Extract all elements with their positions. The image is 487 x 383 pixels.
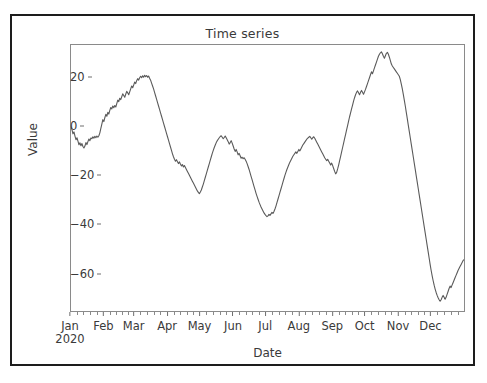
x-minor-tick bbox=[246, 312, 247, 315]
x-minor-tick bbox=[180, 312, 181, 315]
x-minor-tick bbox=[122, 312, 123, 315]
x-minor-tick bbox=[147, 312, 148, 315]
x-minor-tick bbox=[339, 312, 340, 315]
x-tick-mark bbox=[398, 312, 399, 316]
x-minor-tick bbox=[160, 312, 161, 315]
x-tick-jan: Jan2020 bbox=[55, 312, 84, 346]
x-tick-label: Dec bbox=[419, 319, 441, 333]
x-minor-tick bbox=[193, 312, 194, 315]
x-minor-tick bbox=[292, 312, 293, 315]
x-minor-tick bbox=[128, 312, 129, 315]
x-tick-dec: Dec bbox=[419, 312, 441, 333]
x-tick-mark bbox=[232, 312, 233, 316]
x-minor-tick bbox=[252, 312, 253, 315]
x-minor-tick bbox=[371, 312, 372, 315]
x-tick-label: Sep bbox=[321, 319, 343, 333]
x-minor-tick bbox=[378, 312, 379, 315]
x-minor-tick bbox=[405, 312, 406, 315]
x-minor-tick bbox=[154, 312, 155, 315]
x-minor-tick bbox=[279, 312, 280, 315]
x-tick-mar: Mar bbox=[123, 312, 145, 333]
x-tick-apr: Apr bbox=[157, 312, 177, 333]
x-tick-mark bbox=[199, 312, 200, 316]
x-tick-jun: Jun bbox=[224, 312, 242, 333]
x-minor-tick bbox=[326, 312, 327, 315]
chart-title: Time series bbox=[12, 26, 473, 41]
x-tick-label: Jul bbox=[258, 319, 272, 333]
x-minor-tick bbox=[312, 312, 313, 315]
x-minor-tick bbox=[418, 312, 419, 315]
x-tick-aug: Aug bbox=[288, 312, 310, 333]
x-minor-tick bbox=[259, 312, 260, 315]
clipped-header-text bbox=[12, 12, 473, 17]
x-tick-oct: Oct bbox=[355, 312, 375, 333]
x-minor-tick bbox=[411, 312, 412, 315]
x-tick-mark bbox=[298, 312, 299, 316]
x-minor-tick bbox=[437, 312, 438, 315]
y-axis-label: Value bbox=[26, 123, 40, 156]
x-tick-label: Oct bbox=[355, 319, 375, 333]
x-minor-tick bbox=[358, 312, 359, 315]
x-tick-label: Jan bbox=[55, 319, 84, 333]
x-tick-mark bbox=[103, 312, 104, 316]
x-tick-mark bbox=[265, 312, 266, 316]
x-tick-mark bbox=[167, 312, 168, 316]
x-minor-tick bbox=[140, 312, 141, 315]
x-minor-tick bbox=[352, 312, 353, 315]
x-minor-tick bbox=[391, 312, 392, 315]
x-minor-tick bbox=[444, 312, 445, 315]
plot-area bbox=[70, 44, 465, 312]
x-tick-label: Aug bbox=[288, 319, 310, 333]
x-tick-label: Nov bbox=[387, 319, 409, 333]
x-minor-tick bbox=[174, 312, 175, 315]
x-minor-tick bbox=[319, 312, 320, 315]
x-minor-tick bbox=[90, 312, 91, 315]
x-tick-nov: Nov bbox=[387, 312, 409, 333]
x-tick-sep: Sep bbox=[321, 312, 343, 333]
x-minor-tick bbox=[220, 312, 221, 315]
x-minor-tick bbox=[345, 312, 346, 315]
x-tick-label: May bbox=[188, 319, 212, 333]
x-minor-tick bbox=[77, 312, 78, 315]
x-minor-tick bbox=[272, 312, 273, 315]
x-minor-tick bbox=[83, 312, 84, 315]
x-tick-label: Feb bbox=[93, 319, 113, 333]
x-minor-tick bbox=[226, 312, 227, 315]
x-tick-feb: Feb bbox=[93, 312, 113, 333]
x-tick-mark bbox=[70, 312, 71, 316]
x-minor-tick bbox=[424, 312, 425, 315]
x-minor-tick bbox=[206, 312, 207, 315]
x-minor-tick bbox=[385, 312, 386, 315]
x-minor-tick bbox=[187, 312, 188, 315]
x-minor-tick bbox=[239, 312, 240, 315]
x-tick-mark bbox=[430, 312, 431, 316]
x-tick-mark bbox=[332, 312, 333, 316]
x-tick-may: May bbox=[188, 312, 212, 333]
x-minor-tick bbox=[110, 312, 111, 315]
x-tick-mark bbox=[364, 312, 365, 316]
x-tick-mark bbox=[133, 312, 134, 316]
x-axis-label: Date bbox=[70, 346, 465, 360]
series-line bbox=[71, 45, 464, 311]
x-tick-year-label: 2020 bbox=[55, 333, 84, 346]
x-tick-label: Mar bbox=[123, 319, 145, 333]
x-tick-label: Apr bbox=[157, 319, 177, 333]
x-minor-tick bbox=[97, 312, 98, 315]
x-tick-label: Jun bbox=[224, 319, 242, 333]
x-minor-tick bbox=[451, 312, 452, 315]
x-minor-tick bbox=[285, 312, 286, 315]
x-minor-tick bbox=[213, 312, 214, 315]
x-minor-tick bbox=[305, 312, 306, 315]
x-minor-tick bbox=[458, 312, 459, 315]
figure-frame: Time series Value 200−20−40−60 Jan2020Fe… bbox=[10, 14, 475, 366]
x-minor-tick bbox=[116, 312, 117, 315]
x-tick-jul: Jul bbox=[258, 312, 272, 333]
